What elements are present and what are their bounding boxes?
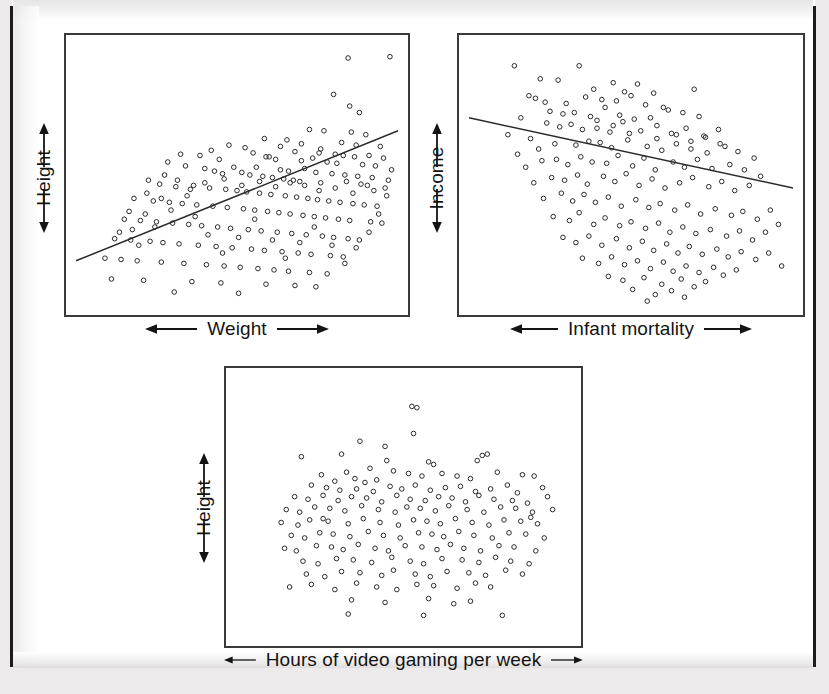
scatter-point bbox=[518, 519, 523, 524]
scatter-point bbox=[477, 493, 482, 498]
page-frame-left-rule bbox=[10, 6, 13, 667]
scatter-point bbox=[288, 181, 293, 186]
scatter-point bbox=[367, 230, 372, 235]
scatter-point bbox=[465, 507, 470, 512]
scatter-canvas-height-vs-weight bbox=[64, 33, 410, 317]
scatter-point bbox=[661, 260, 666, 265]
scatter-point bbox=[659, 282, 664, 287]
scatter-point bbox=[562, 178, 567, 183]
scatter-point bbox=[520, 572, 525, 577]
scatter-point bbox=[737, 229, 742, 234]
scatter-point bbox=[358, 570, 363, 575]
arrow-left-icon bbox=[145, 321, 197, 337]
scatter-point bbox=[674, 142, 679, 147]
scatter-point bbox=[624, 171, 629, 176]
scatter-point bbox=[431, 583, 436, 588]
scatter-point bbox=[161, 240, 166, 245]
scatter-point bbox=[498, 505, 503, 510]
scatter-point bbox=[203, 181, 208, 186]
scatter-point bbox=[335, 161, 340, 166]
scatter-point bbox=[344, 179, 349, 184]
scatter-point bbox=[273, 157, 278, 162]
scatter-point bbox=[616, 153, 621, 158]
scatter-point bbox=[415, 405, 420, 410]
scatter-point bbox=[485, 452, 490, 457]
scatter-point bbox=[634, 197, 639, 202]
scatter-point bbox=[658, 201, 663, 206]
scatter-point bbox=[480, 453, 485, 458]
scatter-point bbox=[396, 523, 401, 528]
scatter-point bbox=[117, 230, 122, 235]
scatter-point bbox=[559, 191, 564, 196]
scatter-point bbox=[215, 225, 220, 230]
scatter-point bbox=[611, 123, 616, 128]
scatter-point bbox=[361, 516, 366, 521]
scatter-point bbox=[346, 521, 351, 526]
arrow-left-icon bbox=[510, 321, 558, 337]
scatter-point bbox=[747, 183, 752, 188]
scatter-point bbox=[314, 170, 319, 175]
scatter-point bbox=[351, 191, 356, 196]
scatter-point bbox=[734, 268, 739, 273]
scatter-point bbox=[630, 164, 635, 169]
scatter-point bbox=[470, 520, 475, 525]
scatter-point bbox=[577, 64, 582, 69]
scatter-point bbox=[353, 476, 358, 481]
scatter-point bbox=[508, 559, 513, 564]
scatter-point bbox=[661, 105, 666, 110]
scatter-point bbox=[109, 277, 114, 282]
scatter-point bbox=[343, 509, 348, 514]
scatter-point bbox=[585, 182, 590, 187]
scatter-point bbox=[302, 183, 307, 188]
scatter-point bbox=[590, 160, 595, 165]
scatter-point bbox=[138, 218, 143, 223]
scatter-point bbox=[538, 77, 543, 82]
scatter-point bbox=[309, 483, 314, 488]
scatter-point bbox=[523, 165, 528, 170]
scatter-point bbox=[497, 543, 502, 548]
scatter-point bbox=[591, 222, 596, 227]
scatter-point bbox=[354, 143, 359, 148]
scatter-point bbox=[711, 265, 716, 270]
scatter-point bbox=[721, 273, 726, 278]
scatter-point bbox=[293, 283, 298, 288]
scatter-point bbox=[779, 264, 784, 269]
scatter-point bbox=[238, 265, 243, 270]
scatter-point bbox=[304, 233, 309, 238]
scatter-point bbox=[347, 104, 352, 109]
scatter-point bbox=[488, 487, 493, 492]
scatter-point bbox=[339, 452, 344, 457]
scatter-point bbox=[162, 173, 167, 178]
scatter-point bbox=[289, 231, 294, 236]
scatter-point bbox=[364, 496, 369, 501]
scatter-point bbox=[365, 183, 370, 188]
scatter-point bbox=[219, 281, 224, 286]
scatter-point bbox=[259, 229, 264, 234]
scatter-point bbox=[622, 90, 627, 95]
scatter-point bbox=[653, 168, 658, 173]
scatter-point bbox=[322, 129, 327, 134]
scatter-point bbox=[386, 549, 391, 554]
scatter-point bbox=[656, 221, 661, 226]
scatter-point bbox=[435, 547, 440, 552]
scatter-point bbox=[278, 144, 283, 149]
scatter-point bbox=[360, 162, 365, 167]
scatter-point bbox=[676, 251, 681, 256]
scatter-point bbox=[611, 80, 616, 85]
scatter-point bbox=[715, 247, 720, 252]
scatter-point bbox=[346, 56, 351, 61]
scatter-point bbox=[381, 156, 386, 161]
scatter-point bbox=[336, 217, 341, 222]
scatter-point bbox=[535, 521, 540, 526]
scatter-point bbox=[154, 220, 159, 225]
scatter-point bbox=[130, 227, 135, 232]
scatter-point bbox=[310, 156, 315, 161]
scatter-point bbox=[543, 100, 548, 105]
scatter-point bbox=[306, 196, 311, 201]
scatter-point bbox=[706, 184, 711, 189]
scatter-point bbox=[282, 546, 287, 551]
scatter-point bbox=[582, 192, 587, 197]
scatter-point bbox=[314, 285, 319, 290]
scatter-point bbox=[329, 545, 334, 550]
y-axis-label-group-height-vs-weight: Height bbox=[26, 85, 62, 270]
